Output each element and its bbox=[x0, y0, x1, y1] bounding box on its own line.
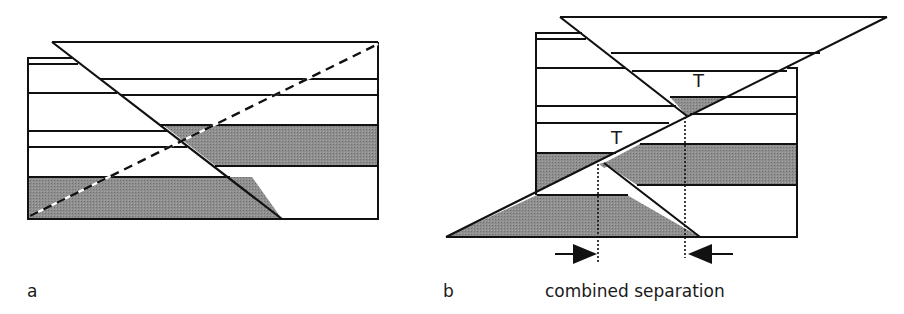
right-pointing-arrow-icon bbox=[555, 244, 597, 264]
annotation-t-lower: T bbox=[611, 127, 622, 148]
footwall-right-shaded-bed bbox=[604, 144, 797, 185]
panel-label-a: a bbox=[27, 281, 37, 301]
normal-fault-line-b bbox=[560, 17, 687, 116]
combined-separation-caption: combined separation bbox=[545, 281, 725, 301]
figure-canvas bbox=[0, 0, 904, 314]
thrust-fault-line bbox=[446, 17, 887, 237]
lower-shaded-wedge bbox=[446, 195, 700, 237]
panel-b-diagram bbox=[446, 17, 887, 264]
hangingwall-shaded-bed bbox=[163, 125, 378, 166]
panel-a-diagram bbox=[28, 42, 378, 219]
panel-label-b: b bbox=[443, 281, 454, 301]
annotation-t-upper: T bbox=[693, 70, 704, 91]
left-pointing-arrow-icon bbox=[688, 244, 733, 264]
